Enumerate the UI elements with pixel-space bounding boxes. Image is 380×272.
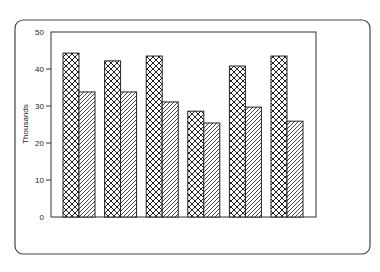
bar-diagonal-2 xyxy=(121,92,137,217)
y-tick-label: 30 xyxy=(35,102,44,111)
y-tick-label: 40 xyxy=(35,65,44,74)
bar-diagonal-6 xyxy=(287,121,303,217)
bar-diagonal-5 xyxy=(245,107,261,217)
bars xyxy=(63,53,303,217)
bar-diagonal-4 xyxy=(204,123,220,217)
y-tick-label: 20 xyxy=(35,139,44,148)
y-tick-label: 10 xyxy=(35,176,44,185)
bar-crosshatch-5 xyxy=(229,66,245,217)
bar-diagonal-1 xyxy=(79,92,95,217)
bar-crosshatch-1 xyxy=(63,53,79,217)
bar-diagonal-3 xyxy=(162,102,178,217)
bar-crosshatch-4 xyxy=(188,111,204,217)
bar-crosshatch-3 xyxy=(146,56,162,217)
bar-chart: 01020304050 Thousands xyxy=(0,0,380,272)
y-tick-label: 50 xyxy=(35,28,44,37)
y-axis-title: Thousands xyxy=(21,104,30,144)
y-axis: 01020304050 xyxy=(35,28,51,222)
bar-crosshatch-2 xyxy=(105,61,121,217)
y-tick-label: 0 xyxy=(40,213,45,222)
bar-crosshatch-6 xyxy=(271,56,287,217)
